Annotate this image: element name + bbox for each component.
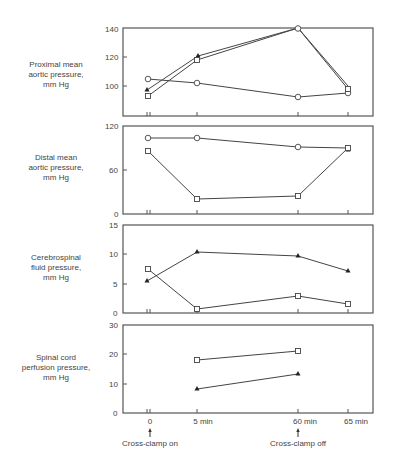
panel-label-line: aortic pressure,	[28, 163, 83, 172]
series-square	[148, 269, 348, 309]
x-axis: 0 5 min 60 min 65 min Cross-clamp on Cro…	[122, 417, 368, 448]
y-tick-label: 60	[109, 166, 118, 175]
panel-label-line: mm Hg	[43, 173, 69, 182]
panel-label-line: Cerebrospinal	[31, 253, 81, 262]
arrow-up-icon	[148, 428, 151, 437]
series-triangle	[147, 28, 348, 90]
panel-label-line: mm Hg	[43, 373, 69, 382]
panel-distal-aortic: Distal mean aortic pressure, mm Hg 120 6…	[28, 122, 373, 219]
y-tick-label: 120	[105, 122, 119, 131]
panel-label-line: aortic pressure,	[28, 70, 83, 79]
chart-figure: Proximal mean aortic pressure, mm Hg 140…	[0, 0, 397, 462]
y-tick-label: 5	[113, 280, 118, 289]
annotation-clamp-on: Cross-clamp on	[122, 439, 178, 448]
y-tick-label: 100	[105, 82, 119, 91]
series-square	[148, 28, 348, 96]
y-tick-label: 0	[114, 210, 119, 219]
arrow-up-icon	[296, 428, 299, 437]
panel-proximal-aortic: Proximal mean aortic pressure, mm Hg 140…	[28, 25, 373, 116]
plot-frame	[123, 126, 373, 214]
y-tick-label: 0	[113, 309, 118, 318]
x-tick-label-5min: 5 min	[193, 417, 213, 426]
panel-label-line: Proximal mean	[29, 60, 82, 69]
panel-spinal-perfusion: Spinal cord perfusion pressure, mm Hg 30…	[22, 321, 373, 418]
x-tick-label-0: 0	[148, 417, 153, 426]
panel-label-line: fluid pressure,	[31, 263, 81, 272]
panel-label-line: Distal mean	[35, 153, 77, 162]
panel-label-line: Spinal cord	[36, 353, 76, 362]
annotation-clamp-off: Cross-clamp off	[270, 439, 327, 448]
y-tick-label: 120	[105, 53, 119, 62]
series-triangle	[147, 252, 348, 281]
y-tick-label: 0	[113, 409, 118, 418]
x-tick-label-60min: 60 min	[293, 417, 317, 426]
series-square	[148, 148, 348, 199]
plot-frame	[123, 225, 373, 313]
series-circle	[148, 79, 348, 97]
y-tick-label: 10	[109, 250, 118, 259]
series-circle	[148, 138, 348, 148]
y-tick-label: 10	[109, 380, 118, 389]
panel-csf-pressure: Cerebrospinal fluid pressure, mm Hg 15 1…	[31, 221, 373, 318]
plot-frame	[123, 325, 373, 413]
x-tick-label-65min: 65 min	[344, 417, 368, 426]
panel-label-line: perfusion pressure,	[22, 363, 90, 372]
y-tick-label: 15	[109, 221, 118, 230]
series-triangle	[197, 374, 298, 389]
y-tick-label: 140	[105, 25, 119, 34]
y-tick-label: 30	[109, 321, 118, 330]
panel-label-line: mm Hg	[43, 273, 69, 282]
series-square	[197, 351, 298, 360]
y-tick-label: 20	[109, 350, 118, 359]
panel-label-line: mm Hg	[43, 80, 69, 89]
